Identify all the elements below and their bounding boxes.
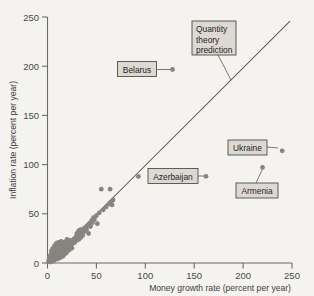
data-point — [99, 187, 104, 192]
annotation-armenia[interactable]: Armenia — [236, 183, 278, 198]
data-point — [95, 221, 100, 226]
x-ticklabel-250: 250 — [284, 270, 300, 281]
chart-svg: 0 50 100 150 200 250 0 50 100 150 200 25… — [0, 0, 314, 296]
annotation-azerbaijan[interactable]: Azerbaijan — [148, 169, 198, 184]
point-ukraine — [280, 148, 285, 153]
x-axis-title: Money growth rate (percent per year) — [149, 283, 291, 293]
ukraine-label: Ukraine — [233, 143, 262, 153]
x-ticklabel-150: 150 — [186, 270, 202, 281]
y-axis-title: Inflation rate (percent per year) — [8, 81, 18, 199]
scatter-chart: 0 50 100 150 200 250 0 50 100 150 200 25… — [0, 0, 314, 296]
belarus-label: Belarus — [123, 65, 151, 75]
annotation-belarus[interactable]: Belarus — [118, 62, 157, 77]
quantity-theory-line-3: prediction — [196, 45, 233, 55]
quantity-theory-line-2: theory — [196, 35, 220, 45]
x-ticklabel-50: 50 — [91, 270, 102, 281]
data-point — [70, 246, 75, 251]
data-point — [86, 231, 91, 236]
annotation-ukraine[interactable]: Ukraine — [228, 140, 267, 155]
y-ticklabel-200: 200 — [23, 61, 39, 72]
annotation-quantity-theory[interactable]: Quantity theory prediction — [192, 21, 236, 55]
y-ticklabel-50: 50 — [28, 208, 39, 219]
data-point — [136, 174, 141, 179]
data-point — [111, 198, 116, 203]
armenia-label: Armenia — [241, 186, 273, 196]
y-ticklabel-150: 150 — [23, 110, 39, 121]
data-point — [108, 187, 113, 192]
data-point — [97, 210, 102, 215]
point-belarus — [170, 67, 175, 72]
azerbaijan-label: Azerbaijan — [153, 172, 193, 182]
y-ticklabel-250: 250 — [23, 12, 39, 23]
y-ticklabel-100: 100 — [23, 159, 39, 170]
data-point — [110, 203, 115, 208]
point-azerbaijan — [204, 174, 209, 179]
x-ticklabel-0: 0 — [45, 270, 50, 281]
quantity-theory-line-1: Quantity — [196, 24, 228, 34]
point-armenia — [260, 165, 265, 170]
y-ticklabel-0: 0 — [34, 258, 39, 269]
x-ticklabel-200: 200 — [235, 270, 251, 281]
x-ticklabel-100: 100 — [137, 270, 153, 281]
